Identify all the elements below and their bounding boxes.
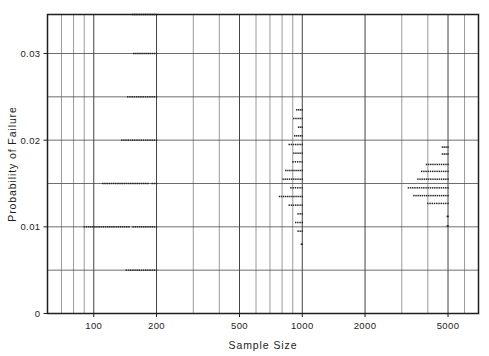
data-point bbox=[299, 187, 300, 189]
data-point bbox=[139, 183, 140, 185]
data-point bbox=[147, 226, 148, 228]
data-point bbox=[430, 195, 431, 197]
data-point bbox=[152, 226, 153, 228]
data-point bbox=[295, 187, 296, 189]
data-point bbox=[416, 187, 417, 189]
data-row bbox=[84, 226, 158, 228]
frame-layer bbox=[44, 15, 479, 318]
data-point bbox=[421, 187, 422, 189]
data-point bbox=[432, 203, 433, 205]
data-point bbox=[447, 216, 448, 218]
data-point bbox=[292, 161, 293, 163]
data-point bbox=[421, 178, 422, 180]
data-point bbox=[432, 178, 433, 180]
data-point bbox=[281, 196, 282, 198]
data-point bbox=[412, 187, 413, 189]
data-point bbox=[143, 139, 144, 141]
data-point bbox=[441, 195, 442, 197]
data-point bbox=[300, 109, 301, 111]
data-point bbox=[111, 183, 112, 185]
data-point bbox=[126, 269, 127, 271]
data-point bbox=[302, 126, 303, 128]
data-point bbox=[429, 203, 430, 205]
data-point bbox=[297, 204, 298, 206]
y-tick-label: 0.03 bbox=[20, 48, 40, 59]
data-point bbox=[147, 183, 148, 185]
data-point bbox=[302, 161, 303, 163]
y-tick-label: 0.01 bbox=[20, 221, 40, 232]
data-point bbox=[141, 183, 142, 185]
data-point bbox=[145, 53, 146, 55]
data-point bbox=[136, 96, 137, 98]
data-point bbox=[106, 183, 107, 185]
data-point bbox=[295, 222, 296, 224]
data-point bbox=[299, 161, 300, 163]
data-point bbox=[125, 139, 126, 141]
data-point bbox=[447, 171, 448, 173]
data-point bbox=[152, 183, 153, 185]
data-row bbox=[285, 170, 303, 172]
data-point bbox=[128, 183, 129, 185]
data-point bbox=[132, 183, 133, 185]
data-point bbox=[141, 53, 142, 55]
data-point bbox=[427, 203, 428, 205]
data-point bbox=[426, 164, 427, 166]
data-point bbox=[445, 146, 446, 148]
data-point bbox=[420, 195, 421, 197]
data-point bbox=[133, 53, 134, 55]
data-point bbox=[302, 152, 303, 154]
data-point bbox=[295, 196, 296, 198]
data-row bbox=[293, 152, 303, 154]
data-point bbox=[421, 171, 422, 173]
data-point bbox=[138, 139, 139, 141]
data-point bbox=[297, 178, 298, 180]
data-row bbox=[301, 243, 303, 245]
data-point bbox=[447, 225, 448, 227]
data-point bbox=[443, 187, 444, 189]
data-point bbox=[437, 178, 438, 180]
x-tick-label: 200 bbox=[148, 320, 165, 331]
data-point bbox=[439, 195, 440, 197]
data-point bbox=[141, 139, 142, 141]
data-point bbox=[441, 164, 442, 166]
data-point bbox=[441, 178, 442, 180]
y-axis-title: Probability of Failure bbox=[6, 106, 18, 222]
data-point bbox=[445, 195, 446, 197]
data-point bbox=[295, 161, 296, 163]
data-point bbox=[143, 53, 144, 55]
data-point bbox=[428, 195, 429, 197]
data-point bbox=[299, 196, 300, 198]
data-point bbox=[434, 164, 435, 166]
data-row bbox=[447, 216, 449, 218]
data-row bbox=[290, 187, 303, 189]
cluster-n5000 bbox=[408, 146, 449, 226]
data-point bbox=[447, 146, 448, 148]
x-axis-title: Sample Size bbox=[229, 339, 298, 351]
data-point bbox=[154, 269, 155, 271]
data-point bbox=[298, 109, 299, 111]
data-point bbox=[295, 204, 296, 206]
data-point bbox=[122, 226, 123, 228]
data-point bbox=[136, 269, 137, 271]
data-point bbox=[291, 144, 292, 146]
data-point bbox=[295, 170, 296, 172]
data-point bbox=[437, 164, 438, 166]
data-point bbox=[293, 118, 294, 120]
data-point bbox=[135, 53, 136, 55]
data-row bbox=[442, 153, 449, 155]
data-point bbox=[287, 196, 288, 198]
data-point bbox=[139, 226, 140, 228]
data-point bbox=[442, 146, 443, 148]
data-point bbox=[297, 170, 298, 172]
data-point bbox=[424, 195, 425, 197]
data-point bbox=[156, 183, 157, 185]
data-point bbox=[291, 204, 292, 206]
data-point bbox=[96, 226, 97, 228]
data-point bbox=[299, 152, 300, 154]
data-point bbox=[145, 269, 146, 271]
data-point bbox=[302, 178, 303, 180]
data-point bbox=[432, 171, 433, 173]
data-point bbox=[130, 183, 131, 185]
x-tick-label: 1000 bbox=[291, 320, 314, 331]
data-point bbox=[121, 139, 122, 141]
